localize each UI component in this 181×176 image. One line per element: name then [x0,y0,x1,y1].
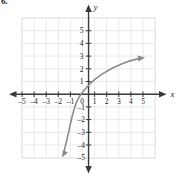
y-tick-label: 2 [80,65,84,74]
x-tick-label: –3 [41,97,50,106]
problem-number-label: 6. [1,0,15,4]
y-tick-label: –2 [77,115,86,124]
y-tick-label: –5 [77,153,86,162]
y-tick-label: 5 [80,26,84,35]
x-tick-label: –5 [17,97,26,106]
x-tick-label: 2 [105,97,109,106]
y-tick-label: –4 [77,141,86,150]
y-tick-label: 4 [80,39,84,48]
y-axis-label: y [93,2,98,12]
y-tick-label: –3 [77,128,86,137]
graph-figure: 6. [0,0,181,176]
function-curve [62,56,145,158]
y-tick-label: 3 [80,52,84,61]
x-tick-label: –2 [54,97,63,106]
x-tick-label: –4 [29,97,38,106]
origin-label: 0 [80,97,84,106]
x-tick-label: 3 [117,97,121,106]
x-axis-label: x [170,89,175,99]
y-tick-label: 1 [80,77,84,86]
x-tick-label: 1 [93,97,97,106]
x-tick-label: –1 [66,97,75,106]
x-tick-label: 4 [129,97,133,106]
x-tick-label: 5 [141,97,145,106]
coordinate-plane: –5 –4 –3 –2 –1 1 2 3 4 5 5 4 3 2 1 –1 –2… [0,0,181,176]
